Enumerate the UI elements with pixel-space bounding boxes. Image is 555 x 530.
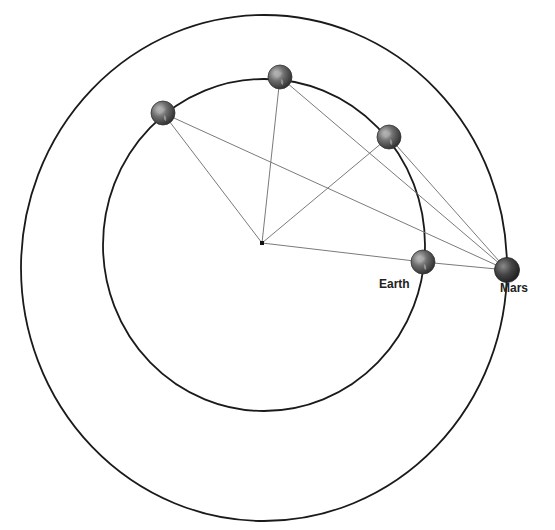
earth-icon-3 (377, 125, 401, 149)
mars-icon (495, 258, 520, 283)
earth-label: Earth (379, 277, 410, 291)
sun-earth-line-2 (262, 77, 280, 243)
orbit-diagram (0, 0, 555, 530)
earth-icon-4 (411, 250, 435, 274)
earth-mars-line-2 (280, 77, 507, 270)
sun-point (260, 241, 264, 245)
sun-earth-line-1 (163, 113, 262, 243)
earth-icon-1 (151, 101, 175, 125)
sun-earth-line-4 (262, 243, 423, 262)
earth-mars-line-1 (163, 113, 507, 270)
sun-earth-line-3 (262, 137, 389, 243)
earth-mars-line-3 (389, 137, 507, 270)
mars-label: Mars (500, 281, 528, 295)
mars-orbit (21, 15, 507, 521)
earth-icon-2 (268, 65, 292, 89)
